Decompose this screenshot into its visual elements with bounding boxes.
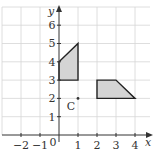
shape-left [59, 44, 78, 81]
y-axis-arrow-icon [56, 5, 62, 12]
grid-canvas: −2 −1 0 1 2 3 4 x 1 2 3 4 5 6 y C [0, 0, 155, 153]
point-c-marker [77, 97, 80, 100]
y-tick-label: 2 [49, 92, 56, 105]
x-tick-label: −2 [13, 139, 29, 152]
y-tick-label: 5 [49, 37, 56, 50]
x-tick-label: −1 [32, 139, 48, 152]
y-tick-label: 6 [49, 19, 56, 32]
x-axis-label: x [145, 136, 152, 149]
x-tick-label: 2 [94, 139, 101, 152]
x-tick-label: 0 [50, 136, 57, 149]
x-tick-label: 4 [132, 139, 139, 152]
y-tick-labels: 1 2 3 4 5 6 y [47, 5, 56, 124]
point-c: C [67, 97, 80, 113]
x-tick-label: 3 [113, 139, 120, 152]
coordinate-diagram: −2 −1 0 1 2 3 4 x 1 2 3 4 5 6 y C [0, 0, 155, 153]
point-c-label: C [67, 100, 75, 113]
x-tick-labels: −2 −1 0 1 2 3 4 x [13, 136, 152, 152]
shape-right [97, 80, 135, 98]
y-axis-label: y [47, 5, 55, 18]
y-tick-label: 3 [49, 74, 56, 87]
y-tick-label: 1 [49, 111, 56, 124]
x-tick-label: 1 [75, 139, 82, 152]
y-tick-label: 4 [49, 56, 56, 69]
